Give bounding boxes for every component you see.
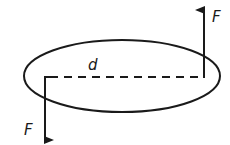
force-couple-diagram: F F d <box>0 0 230 145</box>
label-distance: d <box>88 56 98 74</box>
label-force-top: F <box>212 8 221 26</box>
label-force-bottom: F <box>24 121 33 139</box>
